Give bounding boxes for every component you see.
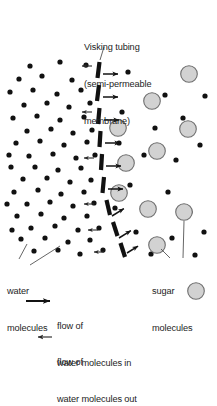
label-water-line-1: water [7, 285, 47, 297]
water-molecule [67, 179, 72, 184]
water-molecule [192, 252, 197, 257]
water-molecule [152, 125, 157, 130]
water-molecule [133, 229, 138, 234]
water-molecule [42, 235, 47, 240]
sugar-leader-b [183, 221, 184, 258]
sugar-molecule [176, 204, 193, 221]
water-molecule [55, 167, 60, 172]
water-molecule [162, 92, 167, 97]
sugar-molecule [181, 66, 198, 83]
water-molecule [9, 227, 14, 232]
water-molecule [180, 115, 185, 120]
water-molecule [91, 200, 96, 205]
water-molecule [127, 182, 132, 187]
water-molecule [11, 189, 16, 194]
water-molecule [78, 165, 83, 170]
title-line-2: (semi-permeable [84, 78, 151, 90]
water-molecule [70, 130, 75, 135]
flow-in-arrow-angled [119, 231, 131, 238]
water-molecule [70, 203, 75, 208]
label-sugar-molecules: sugar molecules [152, 261, 192, 359]
legend-flow-in-line-1: flow of [57, 320, 131, 332]
water-molecule [31, 248, 36, 253]
title-line-1: Visking tubing [84, 41, 151, 53]
label-sugar-line-2: molecules [152, 322, 192, 334]
water-molecule [16, 76, 21, 81]
water-molecule [52, 223, 57, 228]
water-molecule [88, 177, 93, 182]
water-molecule [8, 164, 13, 169]
water-molecule [65, 239, 70, 244]
legend-flow-out-label: flow of water molecules out [57, 332, 137, 406]
water-molecule [20, 176, 25, 181]
sugar-leader-a [161, 249, 170, 258]
label-water-molecules: water molecules [7, 261, 47, 359]
water-molecule [78, 87, 83, 92]
water-molecule [197, 142, 202, 147]
sugar-molecule [111, 185, 128, 202]
label-water-line-2: molecules [7, 322, 47, 334]
sugar-molecule [180, 121, 197, 138]
water-molecule [34, 113, 39, 118]
water-molecule [57, 59, 62, 64]
water-molecule [173, 157, 178, 162]
water-molecule [58, 191, 63, 196]
water-molecule [54, 91, 59, 96]
water-leader-a [19, 244, 27, 259]
water-molecule [44, 100, 49, 105]
water-molecule [48, 126, 53, 131]
water-molecule [202, 93, 207, 98]
water-molecule [37, 138, 42, 143]
water-molecule [81, 189, 86, 194]
water-molecule [26, 153, 31, 158]
flow-in-arrow-angled [127, 246, 138, 253]
water-molecule [57, 117, 62, 122]
membrane-segment-8 [121, 243, 126, 257]
sugar-molecule [140, 201, 157, 218]
water-molecule [169, 235, 174, 240]
water-molecule [66, 104, 71, 109]
water-molecule [28, 225, 33, 230]
water-molecule [165, 189, 170, 194]
water-molecule [201, 229, 206, 234]
water-molecule [92, 152, 97, 157]
water-molecule [32, 164, 37, 169]
water-molecule [38, 211, 43, 216]
water-molecule [141, 152, 146, 157]
figure-title: Visking tubing (semi-permeable membrane) [84, 17, 151, 151]
water-molecule [14, 213, 19, 218]
membrane-segment-4 [101, 154, 102, 170]
water-molecule [7, 89, 12, 94]
water-molecule [75, 227, 80, 232]
label-sugar-line-1: sugar [152, 285, 192, 297]
water-molecule [24, 128, 29, 133]
water-molecule [50, 151, 55, 156]
water-molecule [61, 215, 66, 220]
legend-flow-out-line-1: flow of [57, 356, 137, 368]
membrane-segment-6 [107, 200, 111, 215]
title-line-3: membrane) [84, 115, 151, 127]
water-molecule [35, 187, 40, 192]
water-molecule [112, 205, 117, 210]
water-molecule [84, 213, 89, 218]
membrane-segment-7 [113, 222, 118, 236]
sugar-molecule [118, 155, 135, 172]
water-molecule [18, 236, 23, 241]
membrane-segment-5 [103, 177, 105, 193]
water-molecule [24, 201, 29, 206]
water-molecule [69, 77, 74, 82]
water-molecule [10, 115, 15, 120]
water-molecule [39, 73, 44, 78]
water-molecule [27, 63, 32, 68]
legend-flow-out-line-2: water molecules out [57, 393, 137, 405]
water-molecule [77, 251, 82, 256]
water-molecule [47, 199, 52, 204]
water-molecule [61, 142, 66, 147]
water-molecule [44, 175, 49, 180]
water-molecule [21, 102, 26, 107]
water-molecule [4, 201, 9, 206]
water-molecule [73, 155, 78, 160]
water-molecule [30, 87, 35, 92]
water-molecule [87, 237, 92, 242]
